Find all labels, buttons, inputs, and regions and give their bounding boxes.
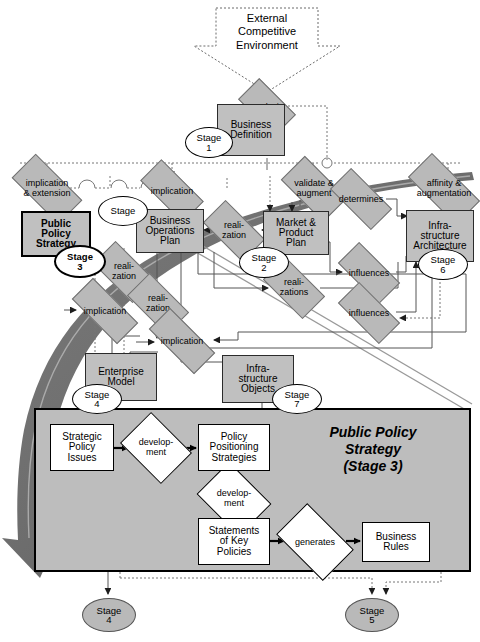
stage-badge-1: Stage 1	[185, 127, 233, 158]
relation-realization-bop-mpp: reali- zation	[206, 215, 262, 247]
panel-title-line-1: Public Policy	[329, 424, 416, 440]
external-line-3: Environment	[236, 39, 298, 51]
node-line-3: Objects	[240, 384, 276, 394]
relation-line-1: reali-	[148, 293, 168, 303]
relation-label: influences	[349, 269, 390, 278]
stage-badge-3: Stage 3	[54, 245, 106, 278]
stage-number: 6	[440, 265, 445, 274]
stage-badge-infrastructure-objects: Stage 7	[272, 384, 322, 414]
relation-label: determines	[339, 195, 384, 204]
relation-label-2line: reali- zation	[112, 262, 136, 281]
relation-line-2: ment	[146, 447, 166, 457]
stage-badge-enterprise-model: Stage 4	[72, 384, 122, 414]
relation-line-2: zation	[112, 271, 136, 281]
panel-relation-development-1: develop- ment	[127, 426, 185, 470]
relation-line-2: augmentation	[417, 188, 472, 198]
node-line-3: Plan	[285, 238, 307, 248]
relation-label: implication	[151, 187, 194, 196]
relation-line-1: develop-	[139, 437, 174, 447]
relation-implication-pps: implication	[73, 296, 137, 326]
relation-line-2: ment	[224, 498, 244, 508]
panel-relation-development-2: develop- ment	[204, 476, 264, 522]
relation-influences-lower: influences	[340, 298, 398, 328]
relation-affinity-augmentation: affinity & augmentation	[410, 172, 478, 206]
relation-line-1: develop-	[217, 488, 252, 498]
relation-label: implication	[161, 337, 204, 346]
relation-label-2line: develop- ment	[139, 438, 174, 457]
stage-word: Stage	[111, 206, 136, 215]
stage-number: 2	[261, 263, 266, 272]
relation-realizations: reali- zations	[266, 272, 322, 304]
panel-node-strategic-policy-issues[interactable]: Strategic Policy Issues	[50, 424, 114, 471]
relation-label-2line: reali- zation	[222, 221, 246, 240]
stage-number: 1	[206, 143, 211, 152]
relation-line-1: reali-	[284, 277, 304, 287]
panel-node-policy-positioning-strategies[interactable]: Policy Positioning Strategies	[198, 424, 270, 471]
relation-implication-top: implication	[142, 176, 202, 206]
node-line-3: Plan	[159, 236, 181, 246]
relation-line-1: implication	[26, 178, 69, 188]
panel-title-line-2: Strategy	[345, 441, 401, 457]
relation-line-2: zations	[280, 287, 309, 297]
top-bus-drops	[47, 163, 448, 176]
panel-title-line-3: (Stage 3)	[343, 458, 402, 474]
panel-node-business-rules[interactable]: Business Rules	[362, 522, 430, 562]
node-line-2: Definition	[229, 130, 273, 140]
node-line-3: Strategies	[210, 453, 257, 463]
relation-implication-extension: implication & extension	[14, 172, 80, 206]
relation-line-1: reali-	[114, 261, 134, 271]
relation-label-2line: reali- zations	[280, 278, 309, 297]
stage-badge-6: Stage 6	[418, 249, 468, 280]
relation-label: generates	[295, 538, 335, 547]
stage-badge-4: Stage 4	[82, 598, 136, 632]
relation-line-2: zation	[222, 230, 246, 240]
stage-number: 5	[369, 615, 374, 624]
stage-number: 7	[294, 399, 299, 408]
relation-line-1: affinity &	[427, 178, 461, 188]
external-line-2: Competitive	[238, 25, 296, 37]
stage-badge-2: Stage 2	[239, 247, 289, 278]
node-line-3: Policies	[216, 547, 252, 557]
node-line-2: Rules	[382, 542, 410, 552]
public-policy-strategy-detail-panel: Public Policy Strategy (Stage 3) Strateg…	[34, 408, 471, 572]
relation-line-2: & extension	[23, 188, 70, 198]
relation-label: influences	[349, 309, 390, 318]
external-environment-label: External Competitive Environment	[207, 12, 327, 52]
relation-label-2line: implication & extension	[23, 179, 70, 198]
relation-implication-lower: implication	[150, 326, 214, 356]
relation-label-2line: develop- ment	[217, 489, 252, 508]
panel-title: Public Policy Strategy (Stage 3)	[293, 424, 453, 475]
relation-line-1: reali-	[224, 220, 244, 230]
relation-label: implication	[84, 307, 127, 316]
stage-badge-5: Stage 5	[345, 598, 399, 632]
relation-influences-upper: influences	[340, 258, 398, 288]
stage-badge-bop: Stage	[98, 196, 148, 226]
relation-label-2line: validate & augment	[294, 179, 334, 198]
relation-determines: determines	[332, 184, 390, 214]
node-line-3: Issues	[67, 453, 98, 463]
stage-number: 3	[77, 262, 82, 271]
external-line-1: External	[247, 12, 287, 24]
edge-br-to-stage5	[386, 572, 441, 594]
stage-number: 4	[106, 615, 111, 624]
relation-line-2: augment	[296, 188, 331, 198]
stage-number: 4	[94, 399, 99, 408]
relation-line-1: validate &	[294, 178, 334, 188]
edge-panel-bus-bottom	[120, 578, 372, 594]
panel-relation-generates: generates	[282, 520, 348, 564]
relation-label-2line: affinity & augmentation	[417, 179, 472, 198]
panel-node-statements-of-key-policies[interactable]: Statements of Key Policies	[198, 518, 270, 565]
